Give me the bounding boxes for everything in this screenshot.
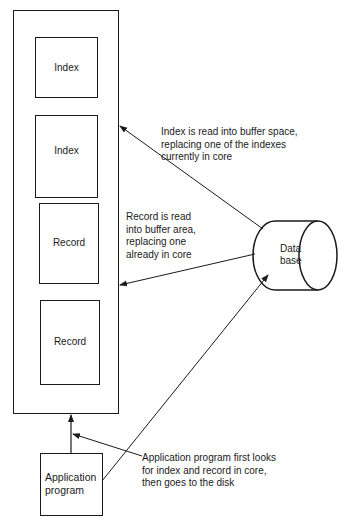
index-block-1: Index: [35, 37, 98, 98]
record-block-2: Record: [40, 300, 100, 385]
index-block-label: Index: [36, 145, 97, 157]
index-block-2: Index: [35, 115, 98, 198]
record-block-1: Record: [39, 203, 99, 284]
database-label: Data base: [280, 243, 302, 267]
application-program-label: Application program: [45, 471, 106, 497]
app-lookup-annotation: Application program first looks for inde…: [142, 452, 276, 490]
app-to-database-arrow: [102, 275, 268, 481]
record-block-label: Record: [41, 336, 99, 348]
record-block-label: Record: [40, 237, 98, 249]
application-program-box: Application program: [40, 453, 103, 516]
index-read-annotation: Index is read into buffer space, replaci…: [161, 126, 298, 164]
index-block-label: Index: [36, 62, 97, 74]
record-read-annotation: Record is read into buffer area, replaci…: [126, 211, 196, 261]
